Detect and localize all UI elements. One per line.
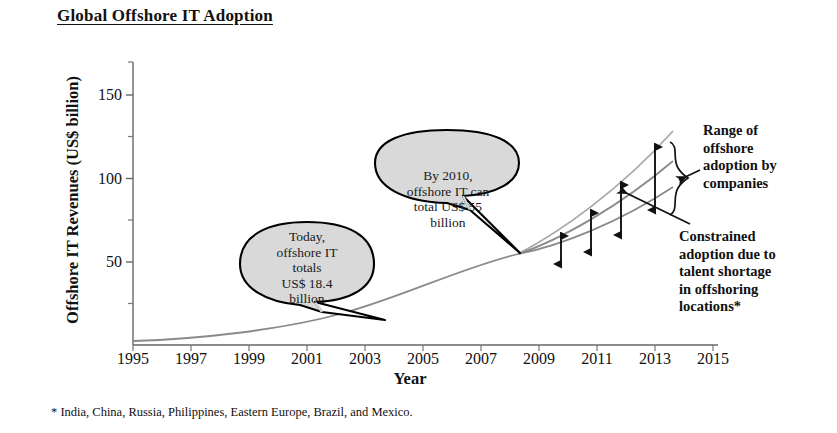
chart-figure: Global Offshore IT Adoption Offshore IT … [0, 0, 837, 433]
y-axis-minor-ticks [128, 62, 133, 304]
annotation-range-line-4: companies [703, 175, 833, 193]
annotation-constrained-line-1: Constrained [679, 228, 831, 246]
annotation-constrained: Constrained adoption due to talent short… [679, 228, 831, 316]
callout-2010-line-1: By 2010, [381, 168, 515, 184]
callout-today-text: Today, offshore IT totals US$ 18.4 billi… [249, 229, 365, 307]
callout-today-line-2: offshore IT [249, 245, 365, 261]
annotation-range-line-2: offshore [703, 140, 833, 158]
callout-today-line-1: Today, [249, 229, 365, 245]
range-leader-arrow [679, 170, 700, 180]
callout-today-line-5: billion [249, 291, 365, 307]
y-axis-major-ticks [126, 95, 133, 262]
callout-today-line-4: US$ 18.4 [249, 276, 365, 292]
series-upper-line [518, 131, 673, 254]
callout-2010-line-2: offshore IT can [381, 184, 515, 200]
callout-2010-text: By 2010, offshore IT can total US$ 55 bi… [381, 168, 515, 230]
annotation-range-line-3: adoption by [703, 157, 833, 175]
annotation-range: Range of offshore adoption by companies [703, 122, 833, 192]
callout-2010-line-3: total US$ 55 [381, 199, 515, 215]
x-axis-ticks [133, 345, 713, 351]
annotation-constrained-line-2: adoption due to [679, 246, 831, 264]
footnote: * India, China, Russia, Philippines, Eas… [51, 405, 413, 420]
annotation-constrained-line-5: locations* [679, 298, 831, 316]
callout-today-line-3: totals [249, 260, 365, 276]
range-brace [670, 142, 688, 215]
annotation-range-line-1: Range of [703, 122, 833, 140]
series-constrained-line [518, 187, 673, 254]
annotation-constrained-line-4: in offshoring [679, 281, 831, 299]
callout-2010-line-4: billion [381, 215, 515, 231]
annotation-constrained-line-3: talent shortage [679, 263, 831, 281]
